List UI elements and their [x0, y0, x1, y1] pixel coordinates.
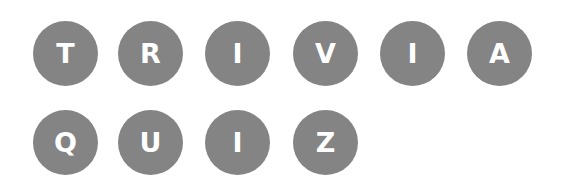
letter-tile: I: [205, 21, 270, 86]
letter-tile: T: [33, 21, 98, 86]
letter-tile: R: [118, 21, 183, 86]
letter-tile: I: [205, 110, 270, 175]
letter-tile: U: [118, 110, 183, 175]
letter: Q: [54, 129, 77, 156]
letter: I: [232, 40, 242, 67]
letter: A: [489, 40, 510, 67]
letter: T: [56, 40, 74, 67]
letter-tile: V: [293, 21, 358, 86]
letter-tile: Q: [33, 110, 98, 175]
letter: R: [140, 40, 161, 67]
letter: I: [407, 40, 417, 67]
letter-tile: A: [467, 21, 532, 86]
letter-tile: Z: [293, 110, 358, 175]
letter-tile: I: [380, 21, 445, 86]
letter: U: [140, 129, 162, 156]
letter: Z: [316, 129, 336, 156]
letter: V: [315, 40, 336, 67]
letter: I: [232, 129, 242, 156]
